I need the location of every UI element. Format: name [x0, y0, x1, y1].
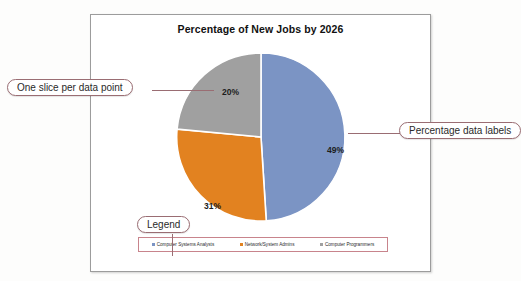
chart-legend[interactable]: Computer Systems Analysts Network/System… [138, 237, 388, 252]
legend-item-computer-programmers[interactable]: Computer Programmers [320, 242, 374, 247]
chart-frame: Percentage of New Jobs by 2026 49% 31% 2… [90, 14, 431, 272]
annotation-percentage-data-labels: Percentage data labels [399, 122, 521, 139]
pie-slice-computer-systems-analysts[interactable] [261, 53, 345, 221]
legend-item-label: Computer Programmers [325, 242, 374, 247]
pie-chart [175, 51, 347, 223]
chart-title: Percentage of New Jobs by 2026 [91, 23, 430, 35]
legend-swatch-icon [240, 243, 243, 246]
callout-leader-line-legend [172, 234, 173, 256]
legend-item-network-system-admins[interactable]: Network/System Admins [240, 242, 295, 247]
legend-swatch-icon [152, 243, 155, 246]
annotation-one-slice-per-data-point: One slice per data point [7, 79, 133, 96]
pie-slice-network-system-admins[interactable] [177, 129, 267, 221]
data-label-31: 31% [204, 201, 221, 211]
data-label-20: 20% [222, 87, 239, 97]
data-label-49: 49% [327, 145, 344, 155]
legend-item-computer-systems-analysts[interactable]: Computer Systems Analysts [152, 242, 214, 247]
legend-item-label: Computer Systems Analysts [157, 242, 214, 247]
callout-leader-line-slice [152, 90, 214, 91]
legend-swatch-icon [320, 243, 323, 246]
callout-leader-line-label [348, 133, 402, 134]
legend-item-label: Network/System Admins [245, 242, 295, 247]
pie-slice-computer-programmers[interactable] [177, 53, 261, 137]
annotation-legend: Legend [137, 216, 190, 233]
pie-svg [175, 51, 347, 223]
